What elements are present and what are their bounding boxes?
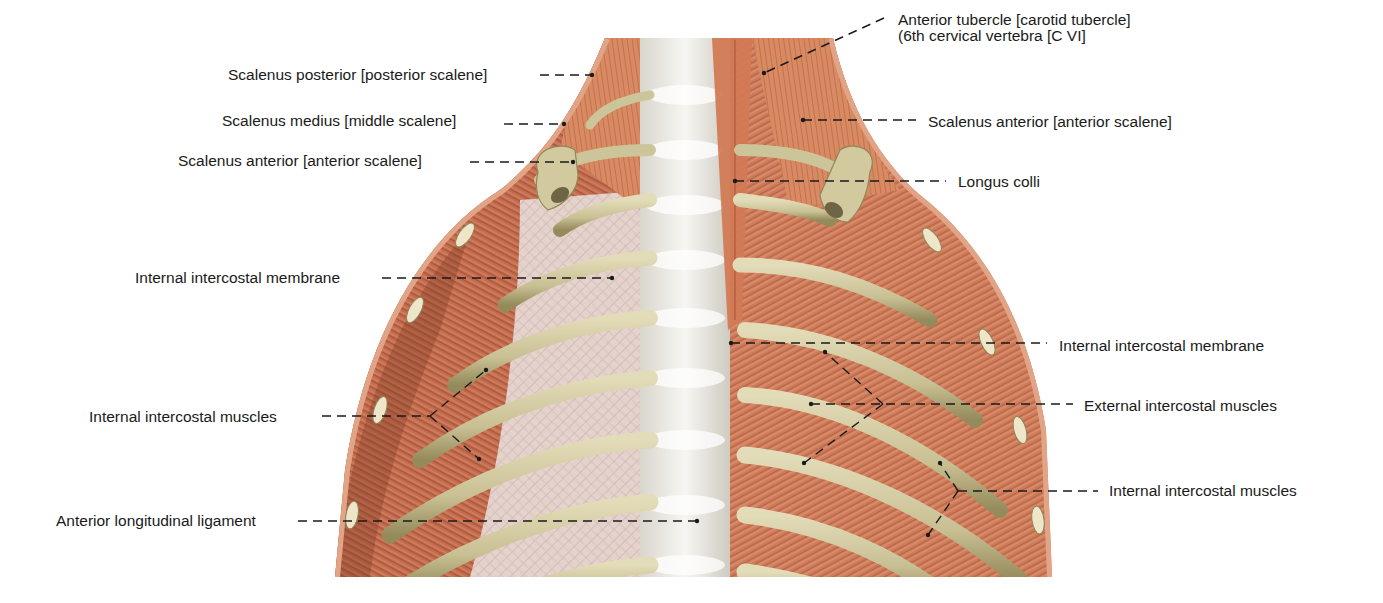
pointer-dot-external-intercostal-muscles [809, 402, 813, 406]
label-anterior-tubercle: Anterior tubercle [carotid tubercle] [898, 12, 1131, 28]
pointer-dot-external-intercostal-muscles [823, 350, 827, 354]
pointer-dot-internal-intercostal-muscles-right [938, 461, 942, 465]
label-anterior-longitudinal-ligament: Anterior longitudinal ligament [56, 513, 256, 529]
label-longus-colli: Longus colli [958, 174, 1040, 190]
anatomy-figure: Scalenus posterior [posterior scalene] S… [0, 0, 1383, 603]
pointer-dot-anterior-longitudinal-ligament [695, 519, 699, 523]
pointer-dot-scalenus-medius-left [562, 122, 566, 126]
pointer-dot-internal-intercostal-muscles-left [484, 368, 488, 372]
pointer-dot-internal-intercostal-membrane-left [610, 276, 614, 280]
pointer-dot-anterior-tubercle [762, 71, 766, 75]
label-scalenus-posterior-left: Scalenus posterior [posterior scalene] [228, 67, 487, 83]
label-internal-intercostal-muscles-right: Internal intercostal muscles [1109, 483, 1297, 499]
pointer-dot-longus-colli [733, 179, 737, 183]
label-external-intercostal-muscles: External intercostal muscles [1084, 398, 1277, 414]
label-scalenus-anterior-right: Scalenus anterior [anterior scalene] [928, 114, 1172, 130]
pointer-dot-internal-intercostal-muscles-left [477, 457, 481, 461]
pointer-dot-external-intercostal-muscles [802, 461, 806, 465]
pointer-dot-internal-intercostal-muscles-right [926, 533, 930, 537]
pointer-dot-scalenus-anterior-left [571, 160, 575, 164]
label-anterior-tubercle-line2: (6th cervical vertebra [C VI] [898, 28, 1086, 44]
pointer-dot-scalenus-posterior-left [590, 73, 594, 77]
pointer-dot-scalenus-anterior-right [801, 118, 805, 122]
label-scalenus-medius-left: Scalenus medius [middle scalene] [222, 113, 456, 129]
label-internal-intercostal-membrane-right: Internal intercostal membrane [1059, 338, 1264, 354]
label-scalenus-anterior-left: Scalenus anterior [anterior scalene] [178, 153, 422, 169]
label-internal-intercostal-muscles-left: Internal intercostal muscles [89, 409, 277, 425]
pointer-dot-internal-intercostal-membrane-right [729, 341, 733, 345]
label-internal-intercostal-membrane-left: Internal intercostal membrane [135, 270, 340, 286]
